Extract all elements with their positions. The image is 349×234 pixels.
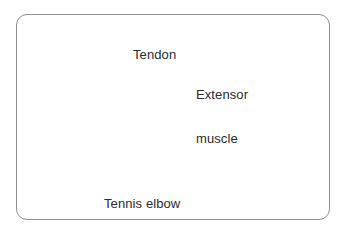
label-tennis-elbow: Tennis elbow: [104, 197, 180, 212]
label-extensor-muscle-line2: muscle: [196, 132, 248, 147]
label-extensor-muscle: Extensor muscle: [196, 59, 248, 175]
label-extensor-muscle-line1: Extensor: [196, 88, 248, 103]
label-tendon: Tendon: [133, 48, 176, 63]
tennis-elbow-figure: Tendon Extensor muscle Tennis elbow: [0, 0, 349, 234]
figure-border: [16, 14, 330, 220]
